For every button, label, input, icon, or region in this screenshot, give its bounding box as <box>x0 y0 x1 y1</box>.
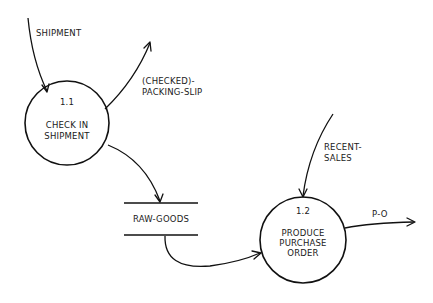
data-store-label: RAW-GOODS <box>133 214 189 224</box>
data-store-raw-goods: RAW-GOODS <box>124 203 198 235</box>
flow-label: P-O <box>372 209 388 219</box>
process-1-1: 1.1 CHECK IN SHIPMENT <box>25 81 109 165</box>
process-1-2: 1.2 PRODUCE PURCHASE ORDER <box>260 197 346 283</box>
flow-label: SALES <box>324 153 352 163</box>
process-id: 1.2 <box>296 206 310 216</box>
process-name-line: ORDER <box>287 248 318 258</box>
process-name-line: PURCHASE <box>279 238 326 248</box>
flow-from-raw-goods <box>165 236 261 266</box>
flow-label: SHIPMENT <box>36 28 82 38</box>
flow-label: (CHECKED)- <box>142 76 195 86</box>
flow-recent-sales: RECENT- SALES <box>299 114 362 197</box>
flow-to-raw-goods <box>108 145 163 202</box>
process-name-line: CHECK IN <box>46 120 88 130</box>
process-name-line: SHIPMENT <box>44 131 90 141</box>
flow-line <box>345 222 414 228</box>
flow-line <box>108 145 160 201</box>
process-name-line: PRODUCE <box>281 228 324 238</box>
flow-p-o: P-O <box>345 209 415 228</box>
flow-checked-packing-slip: (CHECKED)- PACKING-SLIP <box>105 42 202 109</box>
diagram-svg: 1.1 CHECK IN SHIPMENT 1.2 PRODUCE PURCHA… <box>0 0 433 303</box>
flow-line <box>165 236 260 266</box>
flow-label: RECENT- <box>324 142 362 152</box>
data-flow-diagram: 1.1 CHECK IN SHIPMENT 1.2 PRODUCE PURCHA… <box>0 0 433 303</box>
flow-label: PACKING-SLIP <box>142 87 202 97</box>
process-id: 1.1 <box>60 97 74 107</box>
